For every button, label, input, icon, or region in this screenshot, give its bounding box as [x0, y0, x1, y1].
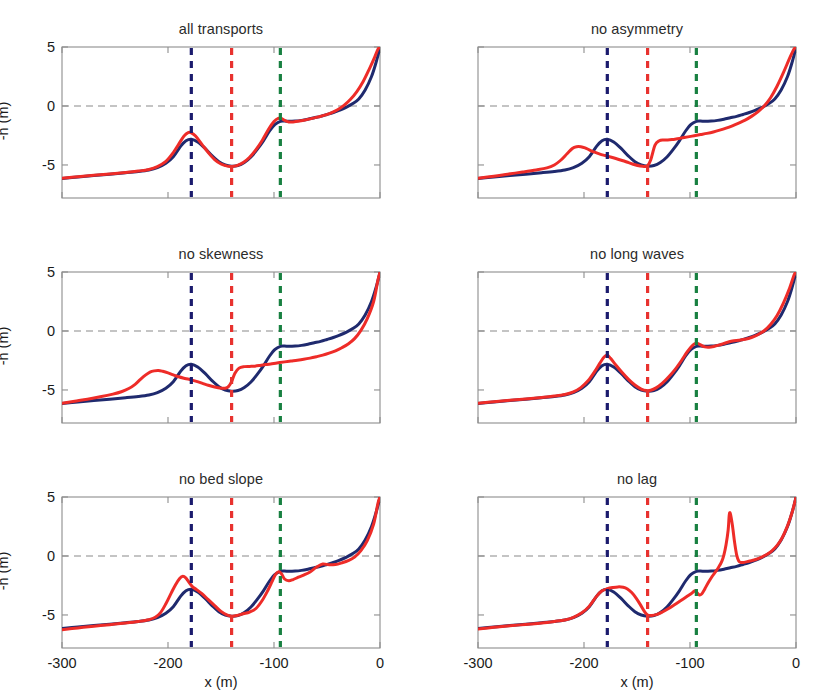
x-tick-label: 0 [792, 655, 800, 671]
panel-all-transports: all transports50-5-h (m) [28, 21, 392, 232]
y-tick-label: 0 [47, 548, 55, 564]
figure-canvas: all transports50-5-h (m)no asymmetryno s… [0, 0, 817, 700]
x-tick-label: -100 [259, 655, 288, 671]
y-axis-label: -h (m) [0, 86, 11, 156]
y-axis-label: -h (m) [0, 536, 11, 606]
plot-no-bed-slope: 50-5-300-200-1000 [28, 471, 392, 682]
y-tick-label: 5 [47, 489, 55, 505]
y-tick-label: 0 [47, 98, 55, 114]
plot-no-long-waves [444, 246, 808, 457]
y-tick-label: 5 [47, 39, 55, 55]
y-tick-label: 5 [47, 264, 55, 280]
plot-no-lag: -300-200-1000 [444, 471, 808, 682]
panel-title-no-skewness: no skewness [62, 246, 380, 262]
x-tick-label: -100 [675, 655, 704, 671]
plot-no-asymmetry [444, 21, 808, 232]
x-axis-label: x (m) [62, 674, 380, 690]
plot-all-transports: 50-5 [28, 21, 392, 232]
x-tick-label: -300 [47, 655, 76, 671]
panel-title-all-transports: all transports [62, 21, 380, 37]
x-axis-label: x (m) [478, 674, 796, 690]
x-tick-label: -300 [463, 655, 492, 671]
y-tick-label: -5 [42, 382, 55, 398]
panel-no-lag: no lag-300-200-1000x (m) [444, 471, 808, 682]
panel-title-no-asymmetry: no asymmetry [478, 21, 796, 37]
panel-title-no-bed-slope: no bed slope [62, 471, 380, 487]
panel-no-skewness: no skewness50-5-h (m) [28, 246, 392, 457]
y-tick-label: -5 [42, 157, 55, 173]
panel-title-no-lag: no lag [478, 471, 796, 487]
x-tick-label: -200 [569, 655, 598, 671]
x-tick-label: -200 [153, 655, 182, 671]
panel-no-asymmetry: no asymmetry [444, 21, 808, 232]
panel-no-long-waves: no long waves [444, 246, 808, 457]
panel-title-no-long-waves: no long waves [478, 246, 796, 262]
plot-no-skewness: 50-5 [28, 246, 392, 457]
y-axis-label: -h (m) [0, 311, 11, 381]
y-tick-label: 0 [47, 323, 55, 339]
y-tick-label: -5 [42, 607, 55, 623]
x-tick-label: 0 [376, 655, 384, 671]
panel-no-bed-slope: no bed slope50-5-300-200-1000-h (m)x (m) [28, 471, 392, 682]
